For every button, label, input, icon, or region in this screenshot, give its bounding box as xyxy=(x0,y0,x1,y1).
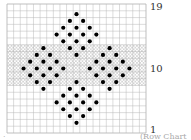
stitch-dot xyxy=(114,53,118,57)
stitch-dot xyxy=(88,39,92,43)
stitch-dot xyxy=(68,100,72,104)
stitch-dot xyxy=(101,80,105,84)
stitch-dot xyxy=(61,94,65,98)
stitch-dot xyxy=(88,94,92,98)
stitch-dot xyxy=(74,39,78,43)
stitch-dot xyxy=(41,73,45,77)
stitch-dot xyxy=(68,32,72,36)
stitch-dot xyxy=(41,60,45,64)
stitch-dot xyxy=(81,87,85,91)
stitch-dot xyxy=(81,100,85,104)
stitch-dot xyxy=(68,114,72,118)
stitch-dot xyxy=(68,87,72,91)
stitch-dot xyxy=(41,87,45,91)
stitch-dot xyxy=(94,32,98,36)
stitch-dot xyxy=(35,66,39,70)
stitch-dot xyxy=(107,87,111,91)
stitch-dot xyxy=(61,66,65,70)
stitch-dot xyxy=(55,73,59,77)
stitch-dot xyxy=(68,46,72,50)
stitch-dot xyxy=(35,80,39,84)
stitch-dot xyxy=(74,121,78,125)
stitch-dot xyxy=(127,66,131,70)
stitch-dot xyxy=(28,73,32,77)
stitch-dot xyxy=(48,80,52,84)
stitch-dot xyxy=(81,32,85,36)
stitch-dot xyxy=(81,46,85,50)
stitch-dot xyxy=(74,94,78,98)
stitch-dot xyxy=(28,60,32,64)
stitch-dot xyxy=(121,60,125,64)
stitch-dot xyxy=(61,107,65,111)
stitch-dot xyxy=(35,53,39,57)
stitch-dot xyxy=(88,66,92,70)
stitch-dot xyxy=(74,12,78,16)
corner-mark: · xyxy=(3,133,6,140)
stitch-dot xyxy=(94,100,98,104)
stitch-dot xyxy=(41,46,45,50)
stitch-dot xyxy=(81,19,85,23)
stitch-dot xyxy=(74,80,78,84)
stitch-dot xyxy=(48,66,52,70)
stitch-dot xyxy=(21,66,25,70)
stitch-dot xyxy=(68,19,72,23)
stitch-dot xyxy=(61,26,65,30)
stitch-dot xyxy=(88,107,92,111)
stitch-dot xyxy=(74,53,78,57)
stitch-dot xyxy=(55,32,59,36)
stitch-dot xyxy=(101,66,105,70)
stitch-dot xyxy=(94,60,98,64)
row-label-10: 10 xyxy=(150,64,163,74)
stitch-dot xyxy=(94,73,98,77)
stitch-dot xyxy=(61,39,65,43)
stitch-dot xyxy=(114,80,118,84)
stitch-dot xyxy=(107,46,111,50)
stitch-dot xyxy=(48,53,52,57)
stitch-dot xyxy=(114,66,118,70)
stitch-dot xyxy=(88,26,92,30)
stitch-dot xyxy=(107,60,111,64)
stitch-dot xyxy=(55,100,59,104)
stitch-dot xyxy=(74,107,78,111)
stitch-dot xyxy=(55,60,59,64)
stitch-dot xyxy=(74,26,78,30)
stitch-dot xyxy=(81,114,85,118)
chart-caption: (Row Chart xyxy=(140,133,186,140)
stitch-dot xyxy=(121,73,125,77)
stitch-dot xyxy=(107,73,111,77)
row-label-19: 19 xyxy=(150,2,163,12)
stitch-dot xyxy=(101,53,105,57)
